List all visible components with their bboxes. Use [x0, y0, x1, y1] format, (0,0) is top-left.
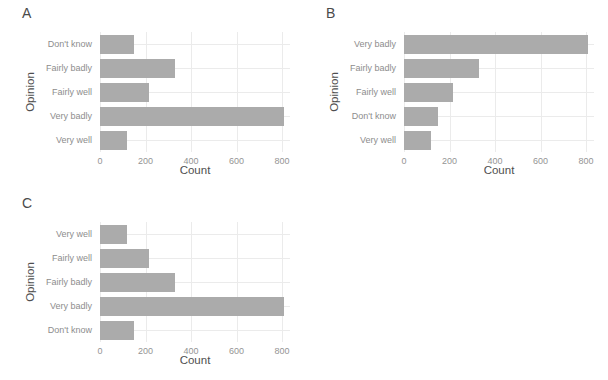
- x-tick-label: 0: [83, 156, 117, 166]
- y-tick-label: Very badly: [0, 300, 92, 312]
- y-tick-label: Fairly badly: [0, 62, 92, 74]
- x-tick-label: 800: [265, 346, 299, 356]
- gridline-v: [237, 222, 238, 342]
- bar: [404, 35, 588, 54]
- panel-letter-b: B: [326, 5, 335, 21]
- gridline-v: [237, 32, 238, 152]
- gridline-h: [404, 140, 594, 141]
- x-tick-label: 400: [478, 156, 512, 166]
- bar: [100, 249, 149, 268]
- bar: [100, 35, 134, 54]
- y-tick-label: Don't know: [304, 110, 396, 122]
- x-tick-label: 0: [83, 346, 117, 356]
- plot-area: [100, 222, 290, 342]
- x-tick-label: 400: [174, 346, 208, 356]
- x-tick-label: 800: [265, 156, 299, 166]
- y-tick-label: Don't know: [0, 38, 92, 50]
- bar: [100, 59, 175, 78]
- bar: [100, 131, 127, 150]
- gridline-v: [191, 32, 192, 152]
- x-tick-label: 200: [129, 156, 163, 166]
- y-tick-label: Very well: [304, 134, 396, 146]
- panel-letter-c: C: [22, 195, 32, 211]
- plot-area: [404, 32, 594, 152]
- bar: [100, 321, 134, 340]
- x-tick-label: 600: [220, 156, 254, 166]
- gridline-v: [282, 32, 283, 152]
- gridline-v: [282, 222, 283, 342]
- y-tick-label: Fairly well: [304, 86, 396, 98]
- x-tick-label: 800: [569, 156, 603, 166]
- plot-area: [100, 32, 290, 152]
- y-tick-label: Very badly: [304, 38, 396, 50]
- y-tick-label: Fairly badly: [304, 62, 396, 74]
- gridline-h: [100, 234, 290, 235]
- panel-letter-a: A: [22, 5, 31, 21]
- figure: A Opinion Count 0200400600800Don't knowF…: [0, 0, 608, 380]
- panel-b: B Opinion Count 0200400600800Very badlyF…: [304, 0, 608, 190]
- bar: [100, 297, 284, 316]
- y-tick-label: Very well: [0, 134, 92, 146]
- x-tick-label: 200: [129, 346, 163, 356]
- panel-c: C Opinion Count 0200400600800Very wellFa…: [0, 190, 304, 380]
- y-tick-label: Don't know: [0, 324, 92, 336]
- x-tick-label: 600: [524, 156, 558, 166]
- bar: [404, 131, 431, 150]
- bar: [100, 107, 284, 126]
- bar: [404, 83, 453, 102]
- gridline-h: [100, 140, 290, 141]
- y-tick-label: Very well: [0, 228, 92, 240]
- y-tick-label: Very badly: [0, 110, 92, 122]
- bar: [404, 59, 479, 78]
- bar: [100, 273, 175, 292]
- x-tick-label: 0: [387, 156, 421, 166]
- x-tick-label: 200: [433, 156, 467, 166]
- bar: [100, 83, 149, 102]
- panel-a: A Opinion Count 0200400600800Don't knowF…: [0, 0, 304, 190]
- x-tick-label: 400: [174, 156, 208, 166]
- bar: [100, 225, 127, 244]
- y-tick-label: Fairly well: [0, 252, 92, 264]
- gridline-v: [191, 222, 192, 342]
- x-tick-label: 600: [220, 346, 254, 356]
- y-tick-label: Fairly well: [0, 86, 92, 98]
- y-tick-label: Fairly badly: [0, 276, 92, 288]
- bar: [404, 107, 438, 126]
